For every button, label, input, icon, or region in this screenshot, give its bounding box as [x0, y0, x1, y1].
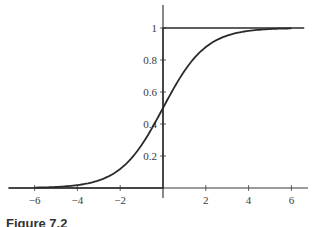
- y-tick-label: 0.4: [143, 118, 157, 130]
- axis-ticks: −6−4−22460.20.40.60.81: [29, 22, 295, 206]
- data-series: [9, 28, 304, 188]
- x-tick-label: −6: [29, 194, 41, 206]
- y-tick-label: 0.8: [143, 54, 157, 66]
- y-tick-label: 0.2: [143, 150, 157, 162]
- y-tick-label: 0.6: [143, 86, 157, 98]
- x-tick-label: 4: [246, 194, 252, 206]
- axes: [8, 5, 308, 198]
- x-tick-label: −4: [72, 194, 84, 206]
- x-tick-label: 2: [203, 194, 209, 206]
- step-function: [9, 28, 304, 188]
- x-tick-label: −2: [114, 194, 126, 206]
- figure-caption: Figure 7.2: [6, 216, 67, 227]
- y-tick-label: 1: [152, 22, 158, 34]
- sigmoid-chart: −6−4−22460.20.40.60.81: [0, 0, 313, 227]
- x-tick-label: 6: [289, 194, 295, 206]
